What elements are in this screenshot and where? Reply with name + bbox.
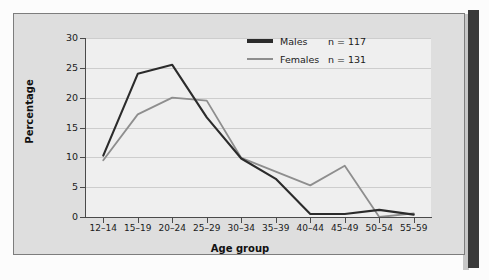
- y-tick: [80, 217, 85, 218]
- y-tick: [80, 98, 85, 99]
- y-axis-line: [85, 38, 86, 218]
- series-line-males: [103, 65, 414, 215]
- page-edge-band: [468, 10, 479, 268]
- y-tick: [80, 38, 85, 39]
- y-axis-title: Percentage: [24, 67, 35, 157]
- y-tick-label: 30: [52, 33, 78, 43]
- legend-label-females: Females: [280, 54, 328, 65]
- legend-swatch-males-icon: [247, 39, 273, 42]
- legend-item-females: Females n = 131: [247, 50, 392, 68]
- legend-item-males: Males n = 117: [247, 32, 392, 50]
- y-tick: [80, 157, 85, 158]
- legend-n-males: n = 117: [328, 36, 366, 47]
- y-tick: [80, 68, 85, 69]
- legend-label-males: Males: [280, 36, 328, 47]
- y-tick-label: 15: [52, 123, 78, 133]
- chart-figure: 051015202530 12–1415–1920–2425–2930–3435…: [0, 0, 489, 280]
- series-line-females: [103, 98, 414, 217]
- y-tick-label: 25: [52, 63, 78, 73]
- legend-swatch-females-icon: [247, 58, 273, 61]
- figure-frame: 051015202530 12–1415–1920–2425–2930–3435…: [13, 13, 465, 255]
- chart-legend: Males n = 117 Females n = 131: [247, 32, 392, 68]
- y-tick-label: 20: [52, 93, 78, 103]
- y-tick-label: 0: [52, 212, 78, 222]
- y-tick: [80, 128, 85, 129]
- y-tick-label: 10: [52, 152, 78, 162]
- y-tick: [80, 187, 85, 188]
- legend-n-females: n = 131: [328, 54, 366, 65]
- y-tick-label: 5: [52, 182, 78, 192]
- x-tick-label: 55–59: [391, 224, 437, 233]
- x-axis-title: Age group: [14, 243, 466, 254]
